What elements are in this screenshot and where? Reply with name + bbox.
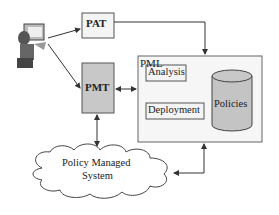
system-label-line1: Policy Managed — [62, 157, 131, 168]
system-label-line2: System — [82, 170, 113, 181]
pmt-label: PMT — [85, 81, 109, 93]
user-computer-icon — [17, 24, 46, 68]
analysis-label: Analysis — [148, 66, 185, 77]
policies-label: Policies — [214, 98, 247, 109]
pat-label: PAT — [86, 17, 106, 29]
deployment-label: Deployment — [148, 104, 200, 115]
